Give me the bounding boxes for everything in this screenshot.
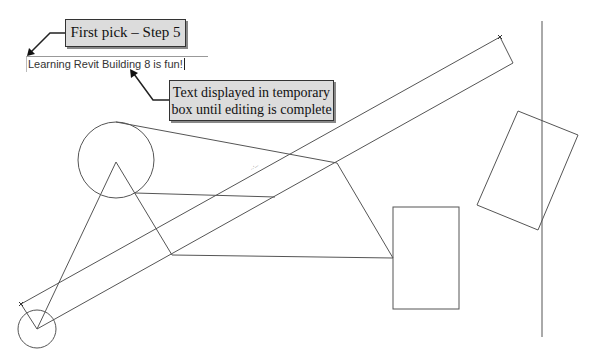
text-box-value[interactable]: Learning Revit Building 8 is fun! xyxy=(28,58,183,70)
callout-temporary-box: Text displayed in temporary box until ed… xyxy=(169,80,334,121)
callout-temporary-box-line1: Text displayed in temporary xyxy=(170,84,333,101)
text-cursor xyxy=(184,58,185,70)
callout2-leader xyxy=(134,74,169,100)
tangent-line-bottom[interactable] xyxy=(135,193,275,197)
band-end-cap-right[interactable] xyxy=(500,37,513,63)
rotated-rectangle[interactable] xyxy=(477,111,578,230)
triangle-left-leg[interactable] xyxy=(37,162,116,329)
callout-temporary-box-line2: box until editing is complete xyxy=(170,101,333,118)
triangle-right-leg[interactable] xyxy=(116,162,172,255)
diagonal-line[interactable] xyxy=(337,163,393,258)
callout-first-pick-text: First pick – Step 5 xyxy=(70,24,180,40)
callout1-leader xyxy=(31,33,65,52)
endpoint-marker-right xyxy=(498,35,502,39)
callout-first-pick: First pick – Step 5 xyxy=(65,19,186,47)
tangent-line-top[interactable] xyxy=(116,122,337,163)
rectangle[interactable] xyxy=(393,207,459,309)
band-end-cap-left[interactable] xyxy=(21,304,37,329)
endpoint-marker-left xyxy=(19,302,23,306)
large-circle[interactable] xyxy=(78,122,154,198)
temporary-text-box[interactable]: Learning Revit Building 8 is fun! xyxy=(26,56,208,72)
drawing-canvas[interactable] xyxy=(0,0,594,362)
band-upper-edge[interactable] xyxy=(21,37,500,304)
base-line[interactable] xyxy=(172,255,393,258)
